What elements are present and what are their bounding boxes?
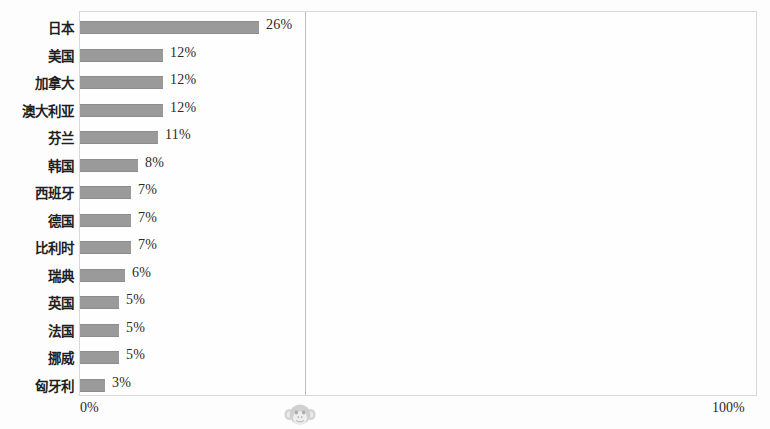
bar-value-label: 12% bbox=[170, 72, 196, 88]
category-label: 芬兰 bbox=[2, 127, 74, 147]
bar bbox=[80, 159, 138, 172]
bar bbox=[80, 241, 131, 254]
bar-row: 5% bbox=[80, 289, 756, 317]
bar bbox=[80, 49, 163, 62]
bar-row: 12% bbox=[80, 97, 756, 125]
bar bbox=[80, 296, 119, 309]
bar-value-label: 6% bbox=[132, 265, 151, 281]
bar-row: 26% bbox=[80, 14, 756, 42]
category-label: 韩国 bbox=[2, 155, 74, 175]
category-label: 挪威 bbox=[2, 347, 74, 367]
bar bbox=[80, 269, 125, 282]
category-axis: 日本美国加拿大澳大利亚芬兰韩国西班牙德国比利时瑞典英国法国挪威匈牙利 bbox=[0, 11, 74, 396]
bar-row: 7% bbox=[80, 234, 756, 262]
category-label: 美国 bbox=[2, 45, 74, 65]
bar-value-label: 11% bbox=[165, 127, 191, 143]
category-label: 日本 bbox=[2, 17, 74, 37]
bar-row: 12% bbox=[80, 42, 756, 70]
x-axis-label-min: 0% bbox=[80, 400, 99, 416]
bar bbox=[80, 131, 158, 144]
bar bbox=[80, 351, 119, 364]
bar-value-label: 5% bbox=[126, 292, 145, 308]
category-label: 西班牙 bbox=[2, 182, 74, 202]
bar-row: 7% bbox=[80, 207, 756, 235]
bar-value-label: 7% bbox=[138, 237, 157, 253]
bar-value-label: 5% bbox=[126, 347, 145, 363]
bar-value-label: 26% bbox=[266, 17, 292, 33]
bar-value-label: 12% bbox=[170, 100, 196, 116]
category-label: 澳大利亚 bbox=[2, 100, 74, 120]
category-label: 加拿大 bbox=[2, 72, 74, 92]
x-axis-label-max: 100% bbox=[712, 400, 745, 416]
chart-page: 日本美国加拿大澳大利亚芬兰韩国西班牙德国比利时瑞典英国法国挪威匈牙利 26%12… bbox=[0, 0, 770, 429]
bar-value-label: 8% bbox=[145, 155, 164, 171]
bar-value-label: 5% bbox=[126, 320, 145, 336]
bar-row: 3% bbox=[80, 372, 756, 400]
category-label: 瑞典 bbox=[2, 265, 74, 285]
bar bbox=[80, 21, 259, 34]
bar-row: 7% bbox=[80, 179, 756, 207]
bar-value-label: 3% bbox=[112, 375, 131, 391]
bar-row: 12% bbox=[80, 69, 756, 97]
bar-row: 11% bbox=[80, 124, 756, 152]
bar-row: 5% bbox=[80, 317, 756, 345]
plot-area: 26%12%12%12%11%8%7%7%7%6%5%5%5%3% bbox=[79, 11, 757, 396]
bar-row: 8% bbox=[80, 152, 756, 180]
bar-row: 6% bbox=[80, 262, 756, 290]
bar bbox=[80, 76, 163, 89]
bar bbox=[80, 324, 119, 337]
bar bbox=[80, 186, 131, 199]
bar-value-label: 12% bbox=[170, 45, 196, 61]
category-label: 匈牙利 bbox=[2, 375, 74, 395]
bar-value-label: 7% bbox=[138, 210, 157, 226]
category-label: 德国 bbox=[2, 210, 74, 230]
bar bbox=[80, 379, 105, 392]
bar bbox=[80, 214, 131, 227]
category-label: 英国 bbox=[2, 292, 74, 312]
bar-value-label: 7% bbox=[138, 182, 157, 198]
category-label: 比利时 bbox=[2, 237, 74, 257]
monkey-face-icon bbox=[283, 404, 317, 426]
bar-row: 5% bbox=[80, 344, 756, 372]
bar bbox=[80, 104, 163, 117]
category-label: 法国 bbox=[2, 320, 74, 340]
